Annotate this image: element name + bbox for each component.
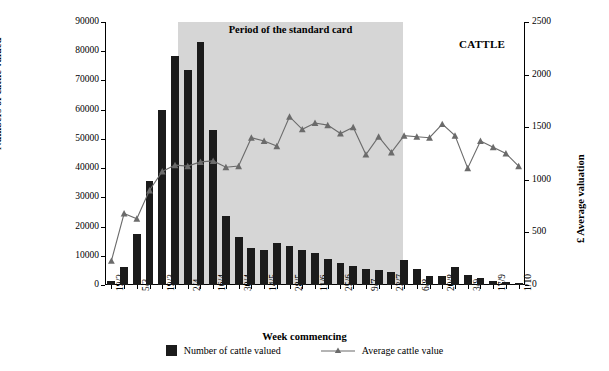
legend-item-line: Average cattle value: [321, 345, 443, 356]
line-marker: [146, 187, 153, 193]
line-marker: [503, 150, 510, 156]
line-marker: [337, 130, 344, 136]
line-marker: [159, 168, 166, 174]
line-marker: [286, 113, 293, 119]
bar-swatch-icon: [166, 345, 177, 356]
line-marker: [464, 165, 471, 171]
legend-label-line: Average cattle value: [362, 345, 443, 356]
legend-item-bars: Number of cattle valued: [166, 345, 281, 356]
line-marker: [439, 121, 446, 127]
chart-root: Period of the standard card CATTLE Numbe…: [0, 0, 609, 371]
line-marker: [133, 215, 140, 221]
line-marker: [273, 143, 280, 149]
line-marker: [350, 124, 357, 130]
line-marker: [312, 120, 319, 126]
line-marker: [121, 210, 128, 216]
chart-legend: Number of cattle valued Average cattle v…: [0, 345, 609, 356]
legend-label-bars: Number of cattle valued: [184, 345, 281, 356]
line-marker: [248, 134, 255, 140]
line-marker: [490, 144, 497, 150]
line-series: [0, 0, 609, 371]
line-swatch-icon: [321, 346, 355, 356]
line-marker: [108, 257, 115, 263]
line-marker: [477, 137, 484, 143]
line-marker: [375, 133, 382, 139]
